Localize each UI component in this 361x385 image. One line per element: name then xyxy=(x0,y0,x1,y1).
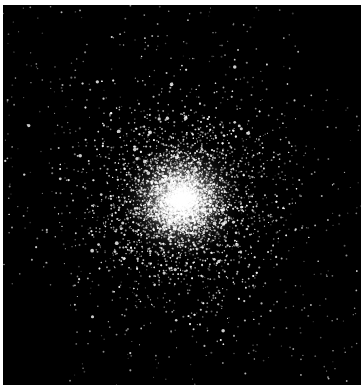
starfield-canvas xyxy=(3,5,361,385)
star-cluster-image xyxy=(3,5,361,385)
